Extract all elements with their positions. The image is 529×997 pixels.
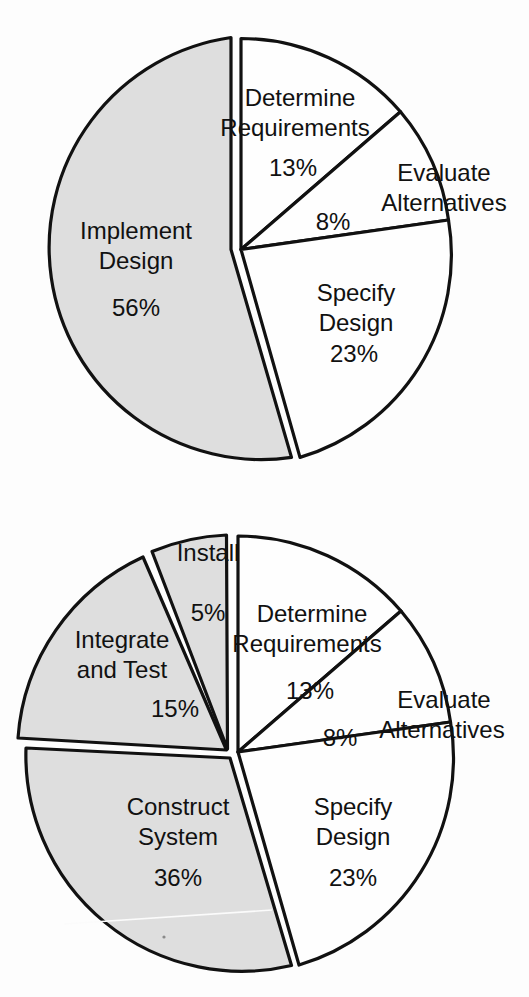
label-line2: and Test [77,656,168,683]
label-line2: Requirements [220,114,369,141]
label-line2: Alternatives [379,716,504,743]
label-line1: Evaluate [397,686,490,713]
label-percent: 13% [286,677,334,704]
label-percent: 23% [330,340,378,367]
label-line2: Design [99,247,174,274]
label-percent: 15% [151,695,199,722]
label-line1: Construct [127,793,230,820]
label-percent: 5% [191,599,226,626]
label-line1: Determine [245,84,356,111]
print-artifact-speck [162,935,165,938]
label-line1: Determine [257,600,368,627]
label-line2: System [138,823,218,850]
label-line1: Specify [317,279,396,306]
label-percent: 36% [154,864,202,891]
label-line1: Implement [80,217,192,244]
label-percent: 13% [269,154,317,181]
label-line1: Evaluate [397,159,490,186]
page-root: Determine Requirements 13% Evaluate Alte… [0,0,529,997]
label-line1: Install [177,539,240,566]
pie-chart-top: Determine Requirements 13% Evaluate Alte… [0,0,529,497]
label-percent: 8% [316,208,351,235]
label-line1: Specify [314,793,393,820]
label-percent: 8% [323,724,358,751]
label-percent: 23% [329,864,377,891]
label-line2: Design [316,823,391,850]
pie-chart-bottom: Install 5% Integrate and Test 15% Constr… [0,497,529,997]
label-line1: Integrate [75,626,170,653]
label-percent: 56% [112,294,160,321]
label-line2: Requirements [232,630,381,657]
label-line2: Design [319,309,394,336]
label-line2: Alternatives [381,189,506,216]
